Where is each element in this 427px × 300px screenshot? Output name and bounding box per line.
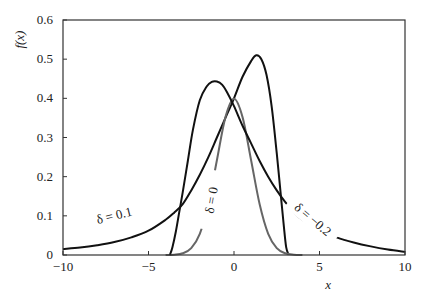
curves-layer [63, 55, 405, 255]
density-plot: δ = 0.1δ = 0δ = −0.2 −10−50510 00.10.20.… [0, 0, 427, 300]
y-tick-label: 0.6 [37, 12, 54, 27]
y-axis-label: f(x) [12, 31, 27, 49]
y-tick-label: 0.3 [37, 130, 53, 145]
x-tick-label: 0 [231, 259, 238, 274]
y-tick-label: 0.2 [37, 169, 53, 184]
y-tick-label: 0.1 [37, 208, 53, 223]
y-tick-label: 0.4 [37, 90, 54, 105]
x-axis-label: x [324, 277, 331, 292]
curve-labels-layer: δ = 0.1δ = 0δ = −0.2 [83, 169, 341, 245]
x-tick-label: 10 [399, 259, 412, 274]
curve-label: δ = −0.2 [291, 200, 334, 239]
x-tick-label: −5 [142, 259, 156, 274]
y-tick-label: 0 [47, 247, 54, 262]
x-tick-label: −10 [53, 259, 73, 274]
y-tick-label: 0.5 [37, 51, 53, 66]
chart-container: δ = 0.1δ = 0δ = −0.2 −10−50510 00.10.20.… [0, 0, 427, 300]
x-tick-label: 5 [316, 259, 323, 274]
